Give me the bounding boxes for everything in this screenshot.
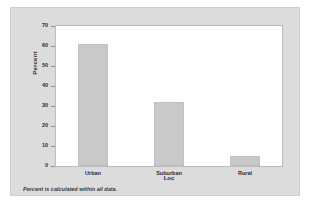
chart-figure: Percent 706050403020100 UrbanSuburbanRur… (0, 0, 310, 203)
bar (154, 102, 184, 166)
y-tick-label: 50 (42, 62, 48, 68)
x-axis-title: Loc (55, 175, 283, 181)
chart-panel: Percent 706050403020100 UrbanSuburbanRur… (10, 7, 300, 196)
chart-footnote: Percent is calculated within all data. (23, 186, 117, 192)
y-tick-label: 60 (42, 42, 48, 48)
y-tick-label: 30 (42, 102, 48, 108)
y-tick-label: 0 (45, 162, 48, 168)
y-axis-ticks: 706050403020100 (11, 25, 55, 167)
bar (230, 156, 260, 166)
y-tick-label: 40 (42, 82, 48, 88)
bar (78, 44, 108, 166)
bar-series (55, 25, 283, 167)
y-tick-label: 20 (42, 122, 48, 128)
y-tick-label: 10 (42, 142, 48, 148)
y-tick-label: 70 (42, 22, 48, 28)
